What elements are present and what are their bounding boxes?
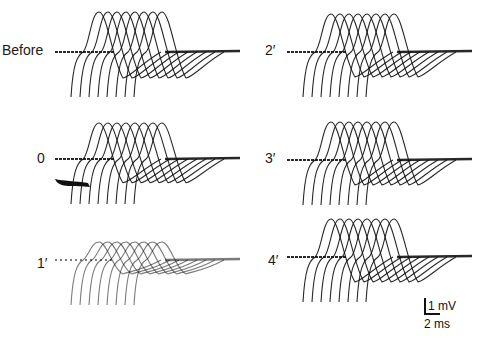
sweep-trace xyxy=(357,219,447,302)
scale-bar-voltage-label: 1 mV xyxy=(428,299,456,313)
scale-bar-horizontal xyxy=(424,313,440,315)
sweep-trace xyxy=(339,219,429,302)
scale-bar-vertical xyxy=(424,298,426,314)
oscilloscope-traces xyxy=(0,0,480,341)
sweep-trace xyxy=(348,219,438,302)
scale-bar: 1 mV 2 ms xyxy=(424,298,480,338)
sweep-trace xyxy=(366,219,456,302)
scale-bar-time-label: 2 ms xyxy=(424,317,450,331)
